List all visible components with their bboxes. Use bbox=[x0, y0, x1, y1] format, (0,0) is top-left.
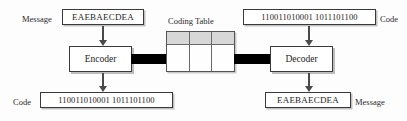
encoder-output-value: 110011010001 1011101100 bbox=[58, 95, 154, 105]
coding-table-header-cell bbox=[167, 32, 190, 45]
decoder-input-value-box: 110011010001 1011101100 bbox=[243, 9, 376, 25]
encoder-output-value-box: 110011010001 1011101100 bbox=[40, 92, 173, 108]
coding-table-body-row bbox=[167, 45, 234, 71]
encoder-output-label: Code bbox=[13, 98, 31, 107]
decoder-input-value: 110011010001 1011101100 bbox=[261, 12, 357, 22]
connector-table-to-decoder bbox=[234, 54, 270, 64]
encoder-label: Encoder bbox=[85, 54, 117, 64]
connector-encoder-to-table bbox=[131, 54, 166, 64]
coding-table-header-cell bbox=[212, 32, 234, 45]
decoder-label: Decoder bbox=[285, 54, 317, 64]
decoder-output-value: EAEBAECDEA bbox=[277, 95, 339, 105]
coding-table-body-cell bbox=[190, 45, 213, 71]
arrow-encoder-to-code bbox=[95, 73, 111, 92]
decoder-input-label: Code bbox=[380, 15, 398, 24]
encoder-input-value: EAEBAECDEA bbox=[72, 12, 134, 22]
coding-table-label: Coding Table bbox=[168, 17, 214, 26]
coding-table-header-row bbox=[167, 32, 234, 45]
coding-table-header-cell bbox=[190, 32, 213, 45]
encoder-input-value-box: EAEBAECDEA bbox=[62, 9, 144, 25]
decoder-box[interactable]: Decoder bbox=[270, 46, 333, 72]
coding-table-body-cell bbox=[212, 45, 234, 71]
diagram-canvas: Message EAEBAECDEA Encoder Code 11001101… bbox=[0, 0, 407, 121]
encoder-box[interactable]: Encoder bbox=[69, 46, 132, 72]
decoder-output-label: Message bbox=[355, 98, 385, 107]
decoder-output-value-box: EAEBAECDEA bbox=[265, 92, 351, 108]
arrow-code-to-decoder bbox=[301, 26, 317, 46]
coding-table-body-cell bbox=[167, 45, 190, 71]
coding-table[interactable] bbox=[166, 31, 235, 72]
arrow-decoder-to-message bbox=[301, 73, 317, 92]
encoder-input-label: Message bbox=[22, 15, 52, 24]
arrow-message-to-encoder bbox=[95, 26, 111, 46]
